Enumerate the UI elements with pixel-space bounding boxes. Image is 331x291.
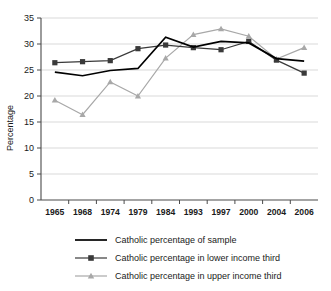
- legend-label: Catholic percentage in lower income thir…: [115, 253, 280, 263]
- x-tick-label: 1968: [73, 207, 92, 217]
- x-tick-label: 2004: [267, 207, 286, 217]
- y-tick-label: 35: [24, 13, 34, 23]
- y-axis-title: Percentage: [5, 105, 15, 151]
- y-tick-label: 30: [24, 39, 34, 49]
- data-point-marker: [135, 46, 140, 51]
- y-tick-label: 15: [24, 117, 34, 127]
- percentage-line-chart: 05101520253035 1965196819741979198419931…: [0, 0, 331, 291]
- legend-swatch-marker: [88, 255, 94, 261]
- y-tick-label: 25: [24, 65, 34, 75]
- y-tick-label: 0: [29, 195, 34, 205]
- data-point-marker: [302, 71, 307, 76]
- data-point-marker: [218, 47, 223, 52]
- y-tick-label: 5: [29, 169, 34, 179]
- legend-label: Catholic percentage of sample: [115, 235, 237, 245]
- y-tick-label: 20: [24, 91, 34, 101]
- x-tick-label: 1997: [211, 207, 230, 217]
- x-tick-label: 1974: [101, 207, 120, 217]
- x-tick-label: 1979: [128, 207, 147, 217]
- x-tick-label: 1965: [45, 207, 64, 217]
- x-tick-label: 2000: [239, 207, 258, 217]
- legend-label: Catholic percentage in upper income thir…: [115, 271, 282, 281]
- x-tick-label: 1993: [184, 207, 203, 217]
- data-point-marker: [163, 42, 168, 47]
- x-tick-label: 2006: [295, 207, 314, 217]
- data-point-marker: [108, 58, 113, 63]
- x-tick-label: 1984: [156, 207, 175, 217]
- chart-container: 05101520253035 1965196819741979198419931…: [0, 0, 331, 291]
- data-point-marker: [52, 60, 57, 65]
- y-tick-label: 10: [24, 143, 34, 153]
- data-point-marker: [80, 59, 85, 64]
